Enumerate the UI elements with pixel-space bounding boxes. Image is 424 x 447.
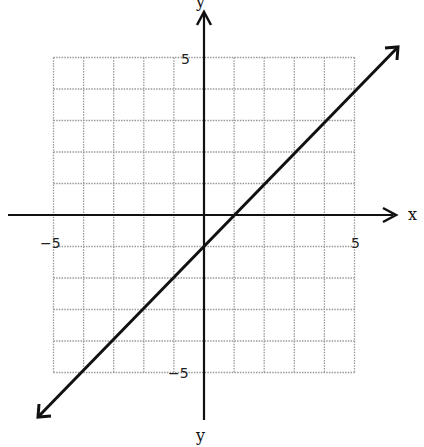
tick-label-x-neg5: −5	[40, 236, 61, 250]
y-axis-label-top: y	[196, 0, 205, 10]
y-axis-label-bottom: y	[196, 428, 205, 444]
x-axis	[8, 208, 396, 222]
tick-label-y-neg5: −5	[168, 366, 189, 380]
tick-label-x-pos5: 5	[351, 236, 360, 250]
x-axis-label: x	[408, 207, 417, 223]
tick-label-y-pos5: 5	[181, 52, 190, 66]
line-y-equals-x-minus-1	[38, 47, 398, 417]
coordinate-plane	[0, 0, 424, 447]
